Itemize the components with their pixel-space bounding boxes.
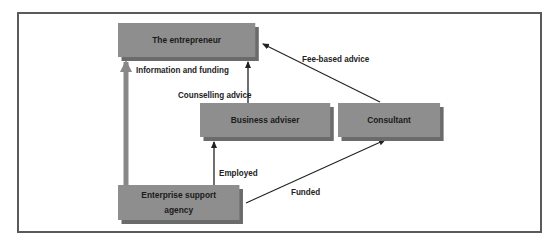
node-label: The entrepreneur (152, 33, 221, 47)
node-label-line-2: agency (164, 203, 193, 217)
edge-label-counselling-advice: Counselling advice (178, 89, 252, 100)
node-label: Business adviser (231, 113, 300, 127)
edge-label-fee-based-advice: Fee-based advice (302, 53, 369, 64)
node-label-line-1: Enterprise support (141, 188, 216, 202)
node-enterprise-support-agency: Enterprise support agency (118, 185, 239, 220)
edge-label-information-and-funding: Information and funding (136, 64, 229, 75)
edge-label-funded: Funded (291, 186, 320, 197)
node-the-entrepreneur: The entrepreneur (118, 23, 255, 57)
node-consultant: Consultant (338, 103, 440, 137)
node-label: Consultant (367, 113, 411, 127)
node-business-adviser: Business adviser (200, 103, 330, 137)
edge-label-employed: Employed (219, 167, 258, 178)
